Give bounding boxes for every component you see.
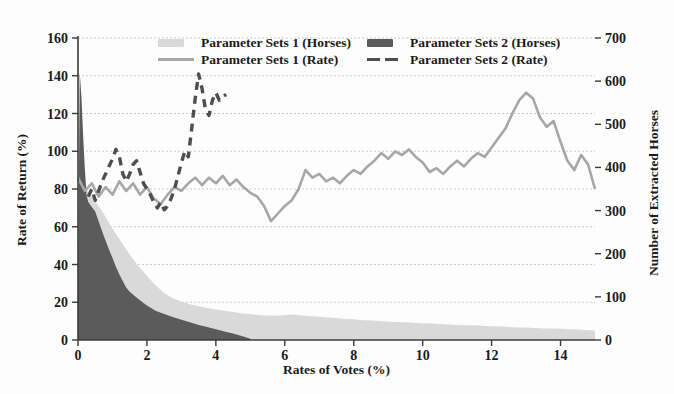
x-tick-label: 4 bbox=[212, 348, 219, 363]
x-tick-label: 0 bbox=[75, 348, 82, 363]
y-tick-label-right: 100 bbox=[605, 290, 626, 305]
y-tick-label-left: 100 bbox=[47, 144, 68, 159]
legend-label: Parameter Sets 1 (Rate) bbox=[201, 52, 338, 68]
legend-item-ps1-horses: Parameter Sets 1 (Horses) bbox=[158, 34, 351, 51]
y-tick-label-right: 400 bbox=[605, 160, 626, 175]
y-tick-label-right: 200 bbox=[605, 247, 626, 262]
y-tick-label-left: 20 bbox=[54, 295, 68, 310]
y-tick-label-right: 0 bbox=[605, 333, 612, 348]
legend-label: Parameter Sets 2 (Rate) bbox=[410, 52, 547, 68]
series-ps1-rate-line bbox=[78, 93, 595, 221]
y-tick-label-left: 80 bbox=[54, 182, 68, 197]
x-tick-label: 12 bbox=[485, 348, 499, 363]
solid-line-swatch-icon bbox=[158, 58, 196, 61]
y-tick-label-left: 140 bbox=[47, 69, 68, 84]
y-tick-label-right: 300 bbox=[605, 204, 626, 219]
x-axis-title: Rates of Votes (%) bbox=[78, 362, 595, 378]
x-tick-label: 14 bbox=[554, 348, 568, 363]
legend-label: Parameter Sets 1 (Horses) bbox=[201, 35, 351, 51]
y-tick-label-right: 600 bbox=[605, 74, 626, 89]
x-tick-label: 6 bbox=[281, 348, 288, 363]
x-tick-label: 10 bbox=[416, 348, 430, 363]
y-tick-label-left: 40 bbox=[54, 258, 68, 273]
y-tick-label-left: 0 bbox=[61, 333, 68, 348]
dashed-line-swatch-icon bbox=[367, 58, 405, 62]
chart-legend: Parameter Sets 1 (Horses) Parameter Sets… bbox=[158, 34, 560, 68]
chart-figure: 0204060801001201401600100200300400500600… bbox=[0, 0, 674, 394]
y-axis-title-right: Number of Extracted Horses bbox=[646, 103, 662, 283]
area-light-swatch-icon bbox=[158, 39, 196, 47]
legend-item-ps1-rate: Parameter Sets 1 (Rate) bbox=[158, 51, 351, 68]
area-dark-swatch-icon bbox=[367, 39, 405, 47]
y-tick-label-right: 500 bbox=[605, 117, 626, 132]
x-tick-label: 2 bbox=[143, 348, 150, 363]
legend-item-ps2-horses: Parameter Sets 2 (Horses) bbox=[367, 34, 560, 51]
y-tick-label-left: 160 bbox=[47, 31, 68, 46]
legend-label: Parameter Sets 2 (Horses) bbox=[410, 35, 560, 51]
y-tick-label-left: 60 bbox=[54, 220, 68, 235]
x-tick-label: 8 bbox=[350, 348, 357, 363]
y-axis-title-left: Rate of Return (%) bbox=[14, 110, 30, 270]
legend-item-ps2-rate: Parameter Sets 2 (Rate) bbox=[367, 51, 560, 68]
y-tick-label-right: 700 bbox=[605, 31, 626, 46]
y-tick-label-left: 120 bbox=[47, 107, 68, 122]
